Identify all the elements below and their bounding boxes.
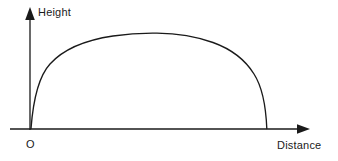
y-axis-arrowhead	[25, 7, 35, 20]
y-axis-label: Height	[38, 7, 71, 18]
x-axis-label: Distance	[277, 140, 321, 151]
projectile-trajectory-figure: Height Distance O	[0, 0, 338, 161]
trajectory-curve	[31, 33, 267, 128]
origin-label: O	[26, 139, 35, 150]
x-axis-arrowhead	[297, 124, 310, 134]
plot-canvas	[0, 0, 338, 161]
